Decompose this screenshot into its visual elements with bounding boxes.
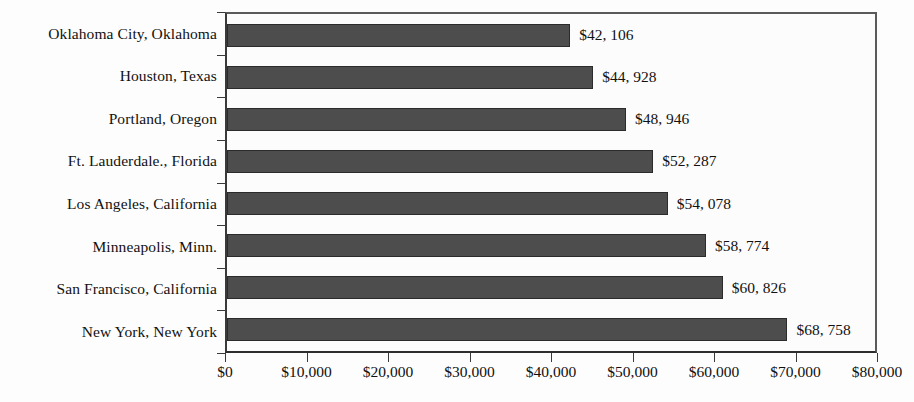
category-label: New York, New York xyxy=(82,324,217,340)
x-axis-tick xyxy=(307,353,308,362)
y-axis-tick-marks xyxy=(217,12,225,353)
bar xyxy=(227,192,668,215)
bar xyxy=(227,150,653,173)
category-label: Houston, Texas xyxy=(120,68,217,84)
bar-value-label: $44, 928 xyxy=(593,69,656,85)
x-axis-tick xyxy=(551,353,552,362)
y-axis-category-labels: Oklahoma City, OklahomaHouston, TexasPor… xyxy=(0,12,217,353)
bars-layer: $42, 106$44, 928$48, 946$52, 287$54, 078… xyxy=(227,14,875,351)
y-axis-tick xyxy=(217,268,225,269)
y-axis-tick xyxy=(217,225,225,226)
category-label: Minneapolis, Minn. xyxy=(92,239,217,255)
bar-row: $58, 774 xyxy=(227,225,875,267)
y-axis-tick xyxy=(217,140,225,141)
bar xyxy=(227,234,706,257)
x-axis-tick-label: $0 xyxy=(217,364,233,380)
x-axis-tick xyxy=(470,353,471,362)
y-axis-tick xyxy=(217,12,225,13)
category-label: Los Angeles, California xyxy=(67,196,217,212)
category-label-row: Oklahoma City, Oklahoma xyxy=(0,12,217,55)
x-axis-tick-label: $80,000 xyxy=(852,364,902,380)
x-axis-tick xyxy=(633,353,634,362)
x-axis-tick-label: $10,000 xyxy=(281,364,331,380)
category-label: San Francisco, California xyxy=(57,281,217,297)
bar-value-label: $68, 758 xyxy=(787,322,850,338)
bar-chart-figure: Oklahoma City, OklahomaHouston, TexasPor… xyxy=(0,0,914,402)
x-axis-tick-label: $60,000 xyxy=(689,364,739,380)
y-axis-tick xyxy=(217,97,225,98)
category-label-row: San Francisco, California xyxy=(0,268,217,311)
bar xyxy=(227,318,787,341)
y-axis-tick xyxy=(217,183,225,184)
bar xyxy=(227,24,570,47)
x-axis-tick-label: $20,000 xyxy=(363,364,413,380)
x-axis-tick xyxy=(877,353,878,362)
category-label: Ft. Lauderdale., Florida xyxy=(68,153,217,169)
x-axis-tick xyxy=(225,353,226,362)
x-axis: $0$10,000$20,000$30,000$40,000$50,000$60… xyxy=(225,353,877,401)
bar-value-label: $48, 946 xyxy=(626,112,689,128)
bar-value-label: $52, 287 xyxy=(653,154,716,170)
x-axis-tick xyxy=(388,353,389,362)
category-label-row: Minneapolis, Minn. xyxy=(0,225,217,268)
category-label-row: Portland, Oregon xyxy=(0,97,217,140)
bar-row: $54, 078 xyxy=(227,183,875,225)
x-axis-tick-label: $50,000 xyxy=(607,364,657,380)
bar-row: $44, 928 xyxy=(227,56,875,98)
category-label-row: New York, New York xyxy=(0,310,217,353)
x-axis-tick-label: $70,000 xyxy=(770,364,820,380)
y-axis-tick xyxy=(217,353,225,354)
category-label-row: Ft. Lauderdale., Florida xyxy=(0,140,217,183)
category-label: Portland, Oregon xyxy=(109,111,217,127)
y-axis-tick xyxy=(217,310,225,311)
bar xyxy=(227,108,626,131)
bar-value-label: $58, 774 xyxy=(706,238,769,254)
category-label: Oklahoma City, Oklahoma xyxy=(48,26,217,42)
x-axis-tick xyxy=(796,353,797,362)
bar-row: $52, 287 xyxy=(227,140,875,182)
category-label-row: Los Angeles, California xyxy=(0,183,217,226)
bar xyxy=(227,276,723,299)
y-axis-tick xyxy=(217,55,225,56)
bar-value-label: $54, 078 xyxy=(668,196,731,212)
bar xyxy=(227,66,593,89)
bar-row: $42, 106 xyxy=(227,14,875,56)
bar-row: $48, 946 xyxy=(227,98,875,140)
x-axis-tick xyxy=(714,353,715,362)
bar-value-label: $60, 826 xyxy=(723,280,786,296)
x-axis-tick-label: $40,000 xyxy=(526,364,576,380)
bar-row: $68, 758 xyxy=(227,309,875,351)
plot-area: $42, 106$44, 928$48, 946$52, 287$54, 078… xyxy=(225,12,877,353)
bar-row: $60, 826 xyxy=(227,267,875,309)
x-axis-tick-label: $30,000 xyxy=(444,364,494,380)
bar-value-label: $42, 106 xyxy=(570,27,633,43)
category-label-row: Houston, Texas xyxy=(0,55,217,98)
